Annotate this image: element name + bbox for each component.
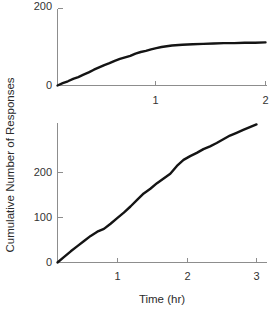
plot-canvas: Cumulative Number of Responses 200 0 1 2	[0, 0, 275, 310]
bottom-panel-y-ticklabel-0: 0	[46, 256, 52, 268]
bottom-panel-y-ticklabel-200: 200	[34, 166, 52, 178]
cumulative-response-figure: Cumulative Number of Responses 200 0 1 2	[0, 0, 275, 310]
bottom-panel-data-curve	[58, 124, 257, 262]
top-panel-x-ticklabel-2: 2	[262, 94, 268, 106]
bottom-panel-x-ticklabel-3: 3	[253, 270, 259, 282]
x-axis-title: Time (hr)	[139, 293, 185, 305]
bottom-panel-y-ticklabel-100: 100	[34, 211, 52, 223]
top-panel-y-ticklabel-200: 200	[34, 0, 52, 12]
y-axis-title: Cumulative Number of Responses	[4, 77, 16, 252]
top-panel-y-ticklabel-0: 0	[46, 79, 52, 91]
bottom-panel-x-ticklabel-1: 1	[114, 270, 120, 282]
top-panel-x-ticklabel-1: 1	[152, 94, 158, 106]
bottom-panel-x-ticklabel-2: 2	[184, 270, 190, 282]
bottom-panel: 200 100 0 1 2 3 Time (hr)	[34, 123, 267, 306]
top-panel-data-curve	[58, 42, 266, 85]
top-panel: 200 0 1 2	[34, 0, 269, 106]
shared-y-axis-title-group: Cumulative Number of Responses	[4, 77, 16, 252]
